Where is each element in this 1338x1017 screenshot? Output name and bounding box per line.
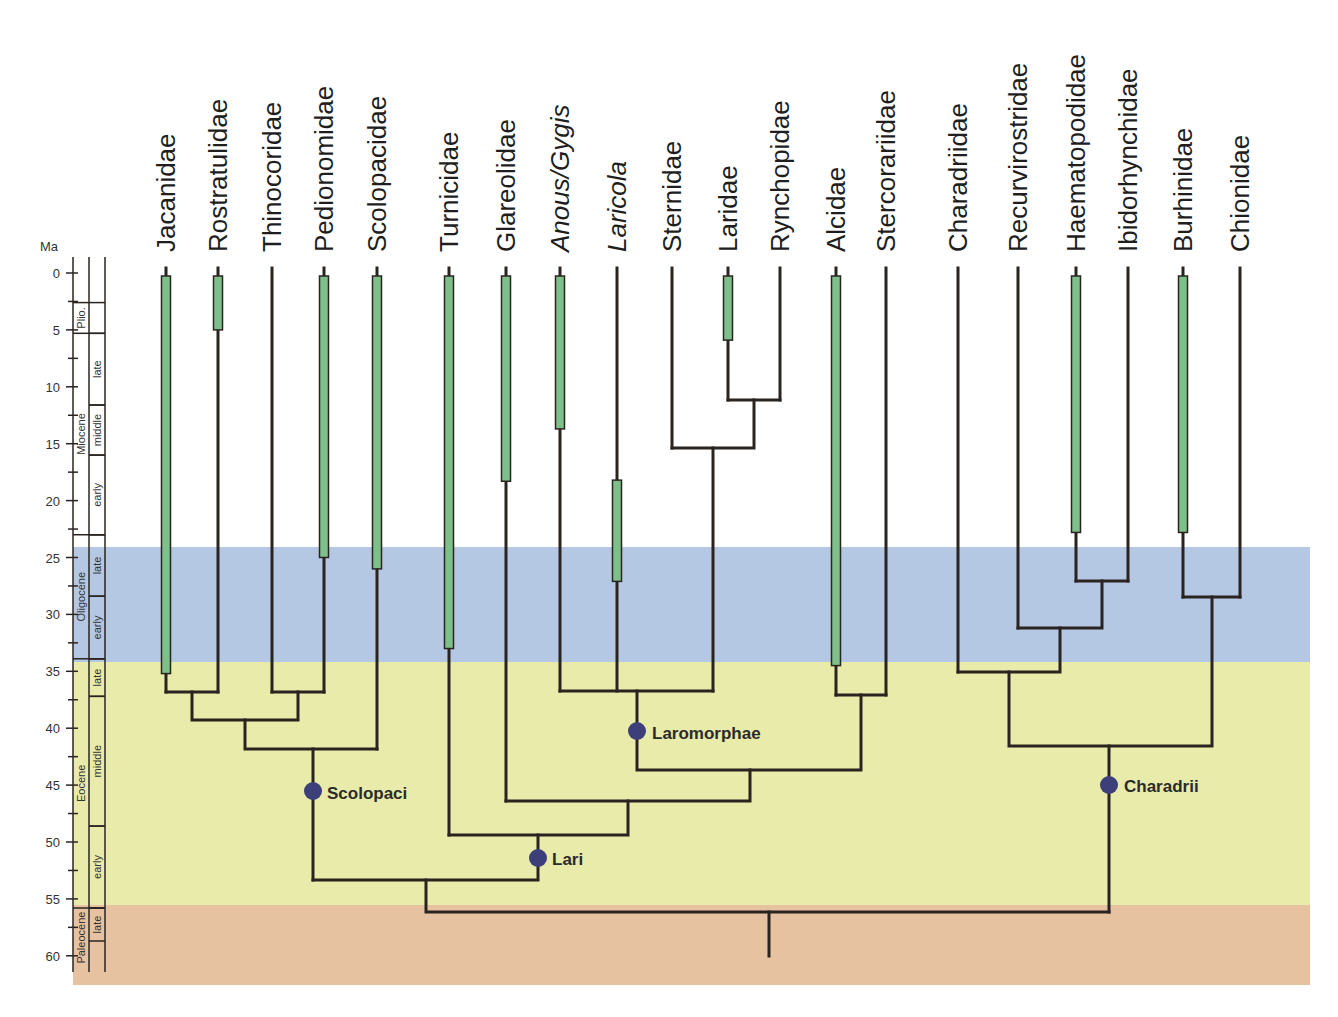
taxon-label: Burhinidae bbox=[1168, 128, 1198, 252]
band-paleocene bbox=[105, 905, 1310, 985]
axis-unit-label: Ma bbox=[40, 239, 59, 254]
taxon-label: Scolopacidae bbox=[362, 96, 392, 252]
taxon-label: Chionidae bbox=[1225, 135, 1255, 252]
tick-label: 25 bbox=[46, 551, 60, 566]
tick-label: 10 bbox=[46, 380, 60, 395]
taxon-label: Laridae bbox=[713, 165, 743, 252]
tick-label: 60 bbox=[46, 949, 60, 964]
epoch-label: Eocene bbox=[75, 765, 87, 802]
subepoch-label: middle bbox=[91, 745, 103, 777]
tick-label: 55 bbox=[46, 892, 60, 907]
fossil-range-bar bbox=[373, 276, 382, 569]
fossil-range-bar bbox=[320, 276, 329, 558]
clade-label-laromorphae: Laromorphae bbox=[652, 724, 761, 743]
tick-label: 30 bbox=[46, 607, 60, 622]
fossil-range-bar bbox=[832, 276, 841, 666]
subepoch-label: late bbox=[91, 360, 103, 378]
fossil-range-bar bbox=[556, 276, 565, 429]
subepoch-label: late bbox=[91, 916, 103, 934]
taxon-label: Charadriidae bbox=[943, 103, 973, 252]
phylogeny-figure: Ma 051015202530354045505560 Plio.Miocene… bbox=[0, 0, 1338, 1017]
taxon-label: Haematopodidae bbox=[1061, 54, 1091, 252]
taxon-label: Glareolidae bbox=[491, 119, 521, 252]
tick-label: 0 bbox=[53, 266, 60, 281]
fossil-range-bar bbox=[613, 480, 622, 581]
subepoch-label: late bbox=[91, 669, 103, 687]
epoch-label: Oligocene bbox=[75, 572, 87, 622]
tick-label: 15 bbox=[46, 437, 60, 452]
fossil-range-bar bbox=[162, 276, 171, 674]
taxon-labels: JacanidaeRostratulidaeThinocoridaePedion… bbox=[151, 54, 1255, 254]
tick-label: 35 bbox=[46, 664, 60, 679]
taxon-label: Alcidae bbox=[821, 167, 851, 252]
taxon-label: Thinocoridae bbox=[257, 102, 287, 252]
background-bands bbox=[73, 547, 1310, 985]
epoch-label: Plio. bbox=[75, 307, 87, 328]
subepoch-label: middle bbox=[91, 414, 103, 446]
taxon-label: Rynchopidae bbox=[765, 100, 795, 252]
taxon-label: Turnicidae bbox=[434, 132, 464, 252]
node-dot-icon bbox=[304, 782, 322, 800]
clade-label-scolopaci: Scolopaci bbox=[327, 784, 407, 803]
node-dot-icon bbox=[1100, 776, 1118, 794]
fossil-range-bar bbox=[445, 276, 454, 649]
taxon-label: Ibidorhynchidae bbox=[1113, 68, 1143, 252]
subepoch-label: early bbox=[91, 482, 103, 506]
fossil-range-bar bbox=[1179, 276, 1188, 532]
taxon-label: Sternidae bbox=[657, 141, 687, 252]
tick-label: 40 bbox=[46, 721, 60, 736]
epoch-label: Miocene bbox=[75, 413, 87, 455]
taxon-label: Pedionomidae bbox=[309, 86, 339, 252]
fossil-range-bar bbox=[214, 276, 223, 330]
fossil-range-bar bbox=[1072, 276, 1081, 532]
subepoch-label: early bbox=[91, 615, 103, 639]
taxon-label: Laricola bbox=[602, 161, 632, 252]
tick-label: 20 bbox=[46, 494, 60, 509]
taxon-label: Stercorariidae bbox=[871, 90, 901, 252]
node-dot-icon bbox=[529, 849, 547, 867]
tick-label: 5 bbox=[53, 323, 60, 338]
tick-label: 50 bbox=[46, 835, 60, 850]
clade-label-charadrii: Charadrii bbox=[1124, 777, 1199, 796]
taxon-label: Jacanidae bbox=[151, 133, 181, 252]
taxon-label: Rostratulidae bbox=[203, 99, 233, 252]
tick-label: 45 bbox=[46, 778, 60, 793]
clade-label-lari: Lari bbox=[552, 850, 583, 869]
node-dot-icon bbox=[628, 722, 646, 740]
node-lari: Lari bbox=[529, 849, 583, 869]
fossil-range-bar bbox=[724, 276, 733, 340]
taxon-label: Anous/Gygis bbox=[545, 105, 575, 254]
fossil-range-bar bbox=[502, 276, 511, 481]
subepoch-label: early bbox=[91, 855, 103, 879]
epoch-label: Paleocene bbox=[75, 912, 87, 964]
subepoch-label: late bbox=[91, 557, 103, 575]
taxon-label: Recurvirostridae bbox=[1003, 63, 1033, 252]
